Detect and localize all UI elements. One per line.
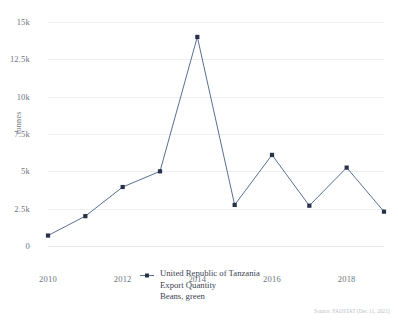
- x-axis-tick-label: 2010: [39, 274, 57, 284]
- legend-label-line-3: Beans, green: [160, 291, 260, 303]
- data-point-marker[interactable]: [158, 169, 162, 173]
- legend-label-line-1: United Republic of Tanzania: [160, 268, 260, 280]
- data-point-marker[interactable]: [195, 35, 199, 39]
- y-axis-tick-label: 10k: [0, 92, 30, 102]
- y-axis-tick-label: 5k: [0, 166, 30, 176]
- legend-label-line-2: Export Quantity: [160, 280, 260, 292]
- grid-line: [48, 246, 384, 247]
- legend-label: United Republic of Tanzania Export Quant…: [160, 268, 260, 303]
- data-point-marker[interactable]: [382, 210, 386, 214]
- data-point-marker[interactable]: [307, 204, 311, 208]
- data-point-marker[interactable]: [46, 233, 50, 237]
- series-line-tanzania-beans-green: [48, 22, 384, 246]
- legend[interactable]: United Republic of Tanzania Export Quant…: [140, 268, 260, 303]
- source-note: Source: FAOSTAT (Dec 11, 2021): [314, 308, 390, 314]
- series-polyline: [48, 37, 384, 236]
- line-square-marker-icon: [140, 272, 154, 279]
- x-axis-tick-label: 2018: [338, 274, 356, 284]
- plot-area: 02.5k5k7.5k10k12.5k15k 20102012201420162…: [48, 22, 384, 246]
- data-point-marker[interactable]: [233, 203, 237, 207]
- data-point-marker[interactable]: [83, 214, 87, 218]
- y-axis-tick-label: 12.5k: [0, 54, 30, 64]
- y-axis-tick-label: 7.5k: [0, 129, 30, 139]
- y-axis-tick-label: 0: [0, 241, 30, 251]
- data-point-marker[interactable]: [270, 153, 274, 157]
- data-point-marker[interactable]: [121, 185, 125, 189]
- data-point-marker[interactable]: [345, 166, 349, 170]
- y-axis-tick-label: 2.5k: [0, 204, 30, 214]
- y-axis-tick-label: 15k: [0, 17, 30, 27]
- x-axis-tick-label: 2016: [263, 274, 281, 284]
- x-axis-tick-label: 2012: [114, 274, 132, 284]
- line-chart: tonnes 02.5k5k7.5k10k12.5k15k 2010201220…: [0, 0, 398, 324]
